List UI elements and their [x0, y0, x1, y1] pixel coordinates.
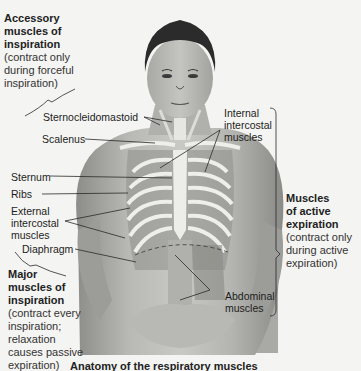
label-internal-intercostal: Internal intercostal muscles	[224, 107, 272, 143]
label-diaphragm: Diaphragm	[22, 243, 73, 255]
label-line: muscles	[225, 302, 275, 314]
group-title-line: muscles of	[8, 281, 83, 294]
group-major-inspiration: Major muscles of inspiration (contract e…	[8, 268, 83, 371]
group-note-line: (contract every	[8, 307, 83, 320]
group-note-line: during active	[286, 244, 352, 257]
label-external-intercostal: External intercostal muscles	[11, 205, 59, 241]
group-accessory-inspiration: Accessory muscles of inspiration (contra…	[4, 12, 74, 90]
label-abdominal: Abdominal muscles	[225, 290, 275, 314]
label-scalenus: Scalenus	[42, 133, 85, 145]
group-title-line: inspiration	[4, 38, 74, 51]
label-line: muscles	[224, 131, 272, 143]
group-active-expiration: Muscles of active expiration (contract o…	[286, 192, 352, 270]
group-note-line: inspiration;	[8, 320, 83, 333]
group-note-line: causes passive	[8, 346, 83, 359]
group-note-line: (contract only	[4, 51, 74, 64]
label-sternocleidomastoid: Sternocleidomastoid	[43, 111, 138, 123]
label-line: intercostal	[224, 119, 272, 131]
label-line: External	[11, 205, 59, 217]
figure-caption: Anatomy of the respiratory muscles	[70, 360, 258, 371]
group-title-line: muscles of	[4, 25, 74, 38]
label-sternum: Sternum	[11, 171, 51, 183]
label-line: muscles	[11, 229, 59, 241]
label-line: Internal	[224, 107, 272, 119]
group-title-line: inspiration	[8, 294, 83, 307]
label-ribs: Ribs	[11, 188, 32, 200]
group-note-line: expiration)	[286, 257, 352, 270]
label-line: intercostal	[11, 217, 59, 229]
group-note-line: relaxation	[8, 333, 83, 346]
group-title-line: Accessory	[4, 12, 74, 25]
group-note-line: (contract only	[286, 231, 352, 244]
respiratory-muscles-figure: Accessory muscles of inspiration (contra…	[0, 0, 361, 371]
group-note-line: inspiration)	[4, 77, 74, 90]
group-note-line: during forceful	[4, 64, 74, 77]
group-title-line: Major	[8, 268, 83, 281]
group-title-line: expiration	[286, 218, 352, 231]
group-title-line: Muscles	[286, 192, 352, 205]
group-title-line: of active	[286, 205, 352, 218]
label-line: Abdominal	[225, 290, 275, 302]
